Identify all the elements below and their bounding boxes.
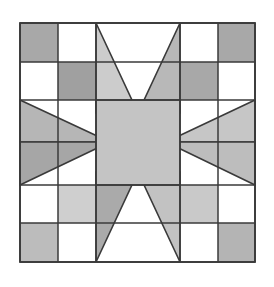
patch-r2c1-white [20,62,58,100]
patch-checker-top-left-inner [58,62,96,100]
patch-r1c2-white [58,23,96,62]
patch-r4c1-white [20,185,58,223]
patch-r5c4-white [180,223,218,262]
quilt-block-drawing: Eight-Pointed Star Quilt Block [0,0,274,287]
patch-corner-top-left [20,23,58,62]
quilt-block-canvas: Eight-Pointed Star Quilt Block [0,0,274,287]
patch-r5c2-white [58,223,96,262]
patch-checker-top-right-inner [180,62,218,100]
patch-checker-bottom-left-inner [58,185,96,223]
patch-star-center [96,100,180,185]
patch-r4c5-white [218,185,255,223]
patch-r2c5-white [218,62,255,100]
patch-r1c4-white [180,23,218,62]
patch-corner-bottom-right [218,223,255,262]
patch-corner-bottom-left [20,223,58,262]
patch-checker-bottom-right-inner [180,185,218,223]
patch-corner-top-right [218,23,255,62]
